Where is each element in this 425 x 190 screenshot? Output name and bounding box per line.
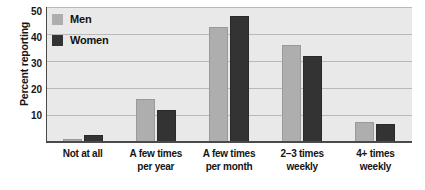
y-axis-tick-labels: 50 40 30 20 10: [20, 0, 42, 145]
x-label-line2: weekly: [339, 160, 412, 173]
x-label-not-at-all: Not at all: [46, 147, 119, 173]
bar-pair: [119, 7, 192, 142]
bar-women[interactable]: [157, 110, 176, 142]
x-label-4-plus-times-weekly: 4+ times weekly: [339, 147, 412, 173]
x-label-line1: A few times: [130, 148, 182, 159]
legend-item-men: Men: [52, 13, 109, 25]
bar-men[interactable]: [355, 122, 374, 142]
legend-item-women: Women: [52, 34, 109, 46]
x-label-2-3-times-weekly: 2–3 times weekly: [266, 147, 339, 173]
bar-women[interactable]: [230, 16, 249, 142]
y-tick-label: 10: [20, 111, 42, 121]
bar-group: [266, 7, 339, 142]
x-label-line1: 2–3 times: [281, 148, 324, 159]
bar-pair: [266, 7, 339, 142]
bar-women[interactable]: [376, 124, 395, 142]
bar-pair: [339, 7, 412, 142]
y-tick-label: 20: [20, 85, 42, 95]
legend-label: Men: [70, 13, 91, 25]
legend-label: Women: [70, 34, 109, 46]
x-axis-category-labels: Not at all A few times per year A few ti…: [46, 147, 412, 173]
bar-women[interactable]: [303, 56, 322, 142]
x-label-line2: per month: [192, 160, 265, 173]
legend-swatch-icon: [52, 14, 63, 25]
bar-men[interactable]: [136, 99, 155, 142]
bar-group: [119, 7, 192, 142]
y-tick-label: 30: [20, 59, 42, 69]
x-label-line1: A few times: [203, 148, 255, 159]
bar-group: [339, 7, 412, 142]
x-label-a-few-times-per-month: A few times per month: [192, 147, 265, 173]
y-tick-label: 50: [20, 7, 42, 17]
x-label-line2: per year: [119, 160, 192, 173]
x-label-line1: 4+ times: [356, 148, 394, 159]
x-axis-line: [46, 141, 412, 143]
x-label-a-few-times-per-year: A few times per year: [119, 147, 192, 173]
bar-chart: Percent reporting 50 40 30 20 10: [0, 0, 425, 190]
bar-group: [192, 7, 265, 142]
bar-men[interactable]: [209, 27, 228, 142]
x-label-line2: weekly: [266, 160, 339, 173]
bar-men[interactable]: [282, 45, 301, 142]
bar-pair: [192, 7, 265, 142]
chart-legend: Men Women: [52, 13, 109, 55]
y-tick-label: 40: [20, 33, 42, 43]
legend-swatch-icon: [52, 35, 63, 46]
x-label-line1: Not at all: [63, 148, 103, 159]
